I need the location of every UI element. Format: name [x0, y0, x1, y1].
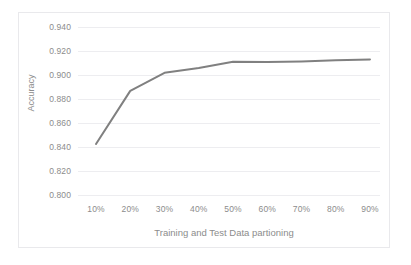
- line-chart-svg: [0, 0, 411, 265]
- y-axis-tick-label: 0.840: [37, 142, 71, 152]
- data-series-line: [96, 59, 370, 144]
- x-axis-tick-label: 90%: [355, 204, 385, 214]
- y-axis-tick-label: 0.800: [37, 190, 71, 200]
- y-axis-tick-label: 0.860: [37, 118, 71, 128]
- x-axis-tick-label: 50%: [218, 204, 248, 214]
- x-axis-tick-label: 70%: [287, 204, 317, 214]
- y-axis-tick-label: 0.880: [37, 94, 71, 104]
- x-axis-tick-label: 80%: [321, 204, 351, 214]
- y-axis-title: Accuracy: [26, 58, 36, 128]
- x-axis-tick-label: 40%: [184, 204, 214, 214]
- y-axis-tick-label: 0.820: [37, 166, 71, 176]
- x-axis-tick-label: 10%: [81, 204, 111, 214]
- x-axis-tick-label: 30%: [150, 204, 180, 214]
- x-axis-tick-label: 20%: [115, 204, 145, 214]
- y-axis-tick-label: 0.900: [37, 70, 71, 80]
- chart-plot-area: 0.9400.9200.9000.8800.8600.8400.8200.800…: [0, 0, 411, 265]
- x-axis-tick-label: 60%: [252, 204, 282, 214]
- y-axis-tick-label: 0.940: [37, 22, 71, 32]
- x-axis-title: Training and Test Data partioning: [78, 227, 370, 238]
- y-axis-tick-label: 0.920: [37, 46, 71, 56]
